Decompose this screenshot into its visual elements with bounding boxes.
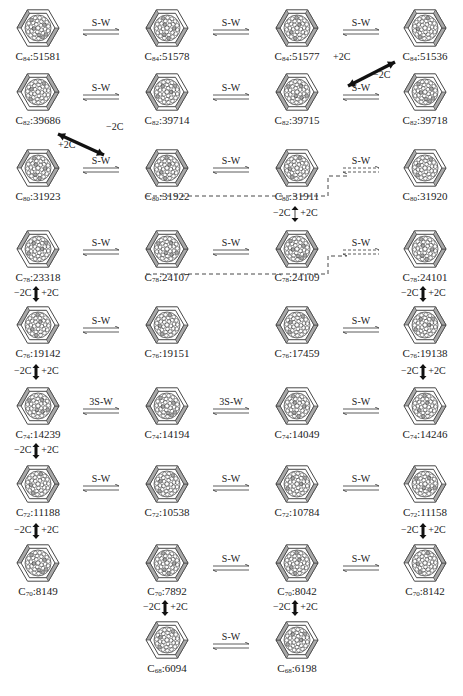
sw-label: S-W [201, 237, 261, 248]
minus-2c-label: −2C [14, 524, 31, 535]
equilibrium-arrows-icon [81, 407, 121, 415]
equilibrium-arrows-icon [81, 166, 121, 174]
double-headed-arrow-icon [419, 523, 427, 539]
isomer-label: C78:23318 [8, 271, 68, 286]
minus-2c-label: −2C [373, 69, 391, 80]
sw-label: 3S-W [201, 396, 261, 407]
stone-wales-equilibrium-arrow: S-W [331, 17, 391, 39]
double-headed-arrow-icon [32, 443, 40, 459]
fullerene-schlegel-icon [16, 464, 60, 504]
fullerene-isomer-c70-8042: C70:8042 [267, 543, 327, 600]
fullerene-isomer-c72-10784: C72:10784 [267, 464, 327, 521]
sw-label: S-W [331, 155, 391, 166]
double-headed-arrow-icon [32, 523, 40, 539]
fullerene-isomer-c82-39718: C82:39718 [395, 72, 455, 129]
plus-2c-label: +2C [333, 51, 351, 62]
fullerene-isomer-c72-11158: C72:11158 [395, 464, 455, 521]
fullerene-schlegel-icon [16, 386, 60, 426]
fullerene-isomer-c72-11188: C72:11188 [8, 464, 68, 521]
stone-wales-equilibrium-arrow: S-W [71, 473, 131, 495]
double-headed-arrow-icon [32, 286, 40, 302]
minus-2c-label: −2C [14, 287, 31, 298]
plus-2c-label: +2C [428, 524, 445, 535]
sw-label: S-W [71, 315, 131, 326]
isomer-label: C72:10538 [137, 506, 197, 521]
minus-2c-label: −2C [106, 121, 124, 132]
equilibrium-arrows-icon [211, 166, 251, 174]
fullerene-schlegel-icon [403, 72, 447, 112]
sw-label: S-W [331, 315, 391, 326]
fullerene-isomer-c84-51581: C84:51581 [8, 8, 68, 65]
isomer-label: C82:39718 [395, 114, 455, 129]
fullerene-isomer-c76-19151: C76:19151 [137, 305, 197, 362]
plus-2c-label: +2C [428, 287, 445, 298]
fullerene-isomer-c82-39686: C82:39686 [8, 72, 68, 129]
fullerene-isomer-c84-51536: C84:51536 [395, 8, 455, 65]
fullerene-isomer-c68-6094: C68:6094 [137, 620, 197, 677]
isomer-label: C74:14194 [137, 428, 197, 443]
sw-label: S-W [201, 473, 261, 484]
isomer-label: C70:8042 [267, 585, 327, 600]
double-headed-arrow-icon [161, 600, 169, 616]
sw-label: S-W [71, 82, 131, 93]
fullerene-isomer-c74-14246: C74:14246 [395, 386, 455, 443]
fullerene-schlegel-icon [403, 8, 447, 48]
fullerene-schlegel-icon [16, 229, 60, 269]
fullerene-isomer-c82-39714: C82:39714 [137, 72, 197, 129]
arrowhead-icon [58, 133, 66, 140]
equilibrium-arrows-icon [81, 484, 121, 492]
equilibrium-arrows-icon [81, 93, 121, 101]
fullerene-schlegel-icon [275, 8, 319, 48]
isomer-label: C76:19142 [8, 347, 68, 362]
equilibrium-arrows-icon [341, 326, 381, 334]
carbon-addition-removal-link: −2C+2C [14, 443, 59, 459]
fullerene-schlegel-icon [403, 386, 447, 426]
stone-wales-equilibrium-arrow: 3S-W [71, 396, 131, 418]
isomer-label: C78:24107 [137, 271, 197, 286]
isomer-label: C74:14049 [267, 428, 327, 443]
sw-label: S-W [331, 553, 391, 564]
fullerene-schlegel-icon [275, 305, 319, 345]
minus-2c-label: −2C [273, 207, 290, 218]
stone-wales-equilibrium-arrow: S-W [201, 473, 261, 495]
fullerene-isomer-c78-23318: C78:23318 [8, 229, 68, 286]
fullerene-schlegel-icon [275, 148, 319, 188]
stone-wales-equilibrium-arrow: S-W [71, 17, 131, 39]
equilibrium-arrows-icon [81, 248, 121, 256]
isomer-label: C72:10784 [267, 506, 327, 521]
double-headed-arrow-icon [419, 364, 427, 380]
stone-wales-equilibrium-arrow: S-W [71, 315, 131, 337]
fullerene-isomer-c80-31922: C80:31922 [137, 148, 197, 205]
sw-label: 3S-W [71, 396, 131, 407]
isomer-label: C78:24109 [267, 271, 327, 286]
fullerene-schlegel-icon [16, 8, 60, 48]
double-headed-arrow-icon [32, 364, 40, 380]
plus-2c-label: +2C [428, 365, 445, 376]
arrowhead-icon [387, 62, 395, 69]
fullerene-isomer-c80-31920: C80:31920 [395, 148, 455, 205]
fullerene-isomer-c76-19142: C76:19142 [8, 305, 68, 362]
minus-2c-label: −2C [401, 524, 418, 535]
isomer-label: C76:19151 [137, 347, 197, 362]
stone-wales-equilibrium-arrow: S-W [201, 631, 261, 653]
minus-2c-label: −2C [273, 601, 290, 612]
fullerene-isomer-c74-14239: C74:14239 [8, 386, 68, 443]
fullerene-schlegel-icon [403, 229, 447, 269]
fullerene-schlegel-icon [16, 543, 60, 583]
carbon-addition-removal-link: −2C+2C [273, 600, 318, 616]
plus-2c-label: +2C [300, 601, 317, 612]
isomer-label: C70:7892 [137, 585, 197, 600]
isomer-label: C84:51581 [8, 50, 68, 65]
minus-2c-label: −2C [401, 287, 418, 298]
plus-2c-label: +2C [41, 444, 58, 455]
fullerene-schlegel-icon [145, 464, 189, 504]
fullerene-schlegel-icon [403, 543, 447, 583]
fullerene-isomer-c78-24109: C78:24109 [267, 229, 327, 286]
equilibrium-arrows-icon [341, 248, 381, 256]
minus-2c-label: −2C [143, 601, 160, 612]
fullerene-schlegel-icon [275, 543, 319, 583]
fullerene-schlegel-icon [145, 229, 189, 269]
fullerene-isomer-c70-8142: C70:8142 [395, 543, 455, 600]
fullerene-schlegel-icon [145, 386, 189, 426]
plus-2c-label: +2C [170, 601, 187, 612]
